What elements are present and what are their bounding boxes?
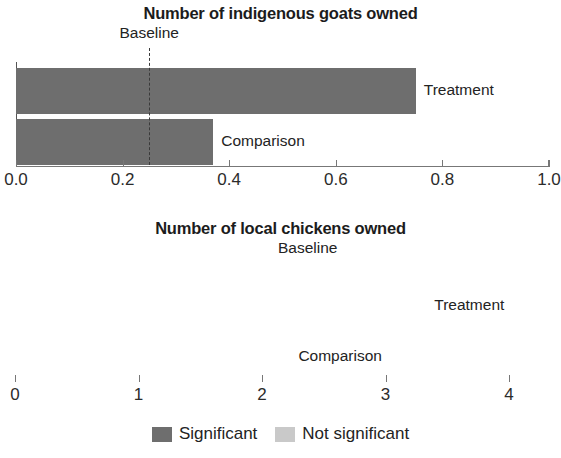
x-axis-tick-goats-3: [336, 160, 337, 167]
x-axis-tick-goats-0: [16, 160, 17, 167]
x-axis-tick-goats-4: [442, 160, 443, 167]
plot-area-goats: [16, 62, 549, 167]
x-axis-tick-label-goats-3: 0.6: [324, 170, 348, 190]
bar-label-chickens-comparison: Comparison: [298, 347, 382, 365]
bar-label-chickens-treatment: Treatment: [434, 296, 504, 314]
x-axis-tick-goats-5: [549, 160, 550, 167]
x-axis-tick-label-chickens-0: 0: [10, 385, 19, 405]
x-axis-tick-label-chickens-3: 3: [381, 385, 390, 405]
legend-swatch-not-significant-icon: [275, 427, 295, 442]
legend-swatch-significant-icon: [152, 427, 172, 442]
chart-panel-chickens: Number of local chickens owned Baseline …: [0, 205, 561, 405]
x-axis-tick-goats-2: [229, 160, 230, 167]
x-axis-tick-label-goats-5: 1.0: [537, 170, 561, 190]
bar-goats-treatment: [16, 68, 416, 114]
x-axis-tick-chickens-0: [15, 375, 16, 382]
x-axis-tick-goats-1: [123, 160, 124, 167]
x-axis-tick-chickens-3: [386, 375, 387, 382]
x-axis-tick-label-chickens-1: 1: [134, 385, 143, 405]
legend-label-not-significant: Not significant: [302, 424, 409, 444]
x-axis-goats: [16, 166, 549, 167]
bar-goats-comparison: [16, 119, 213, 165]
chart-panel-goats: Number of indigenous goats owned Baselin…: [0, 0, 561, 200]
x-axis-tick-chickens-2: [262, 375, 263, 382]
x-axis-tick-label-goats-4: 0.8: [431, 170, 455, 190]
baseline-label-chickens: Baseline: [278, 239, 337, 257]
chart-title-goats: Number of indigenous goats owned: [0, 4, 561, 23]
x-axis-tick-label-goats-0: 0.0: [4, 170, 28, 190]
legend-item-not-significant: Not significant: [275, 424, 409, 444]
x-axis-tick-label-chickens-4: 4: [504, 385, 513, 405]
baseline-line-goats: [149, 48, 150, 165]
x-axis-tick-label-goats-2: 0.4: [217, 170, 241, 190]
x-axis-tick-label-goats-1: 0.2: [111, 170, 135, 190]
bar-label-goats-treatment: Treatment: [424, 81, 494, 99]
bar-label-goats-comparison: Comparison: [221, 132, 305, 150]
x-axis-tick-label-chickens-2: 2: [257, 385, 266, 405]
legend-item-significant: Significant: [152, 424, 257, 444]
chart-title-chickens: Number of local chickens owned: [0, 219, 561, 238]
legend-label-significant: Significant: [179, 424, 257, 444]
x-axis-tick-chickens-1: [139, 375, 140, 382]
x-axis-tick-chickens-4: [509, 375, 510, 382]
baseline-label-goats: Baseline: [120, 24, 179, 42]
chart-legend: Significant Not significant: [0, 424, 561, 444]
